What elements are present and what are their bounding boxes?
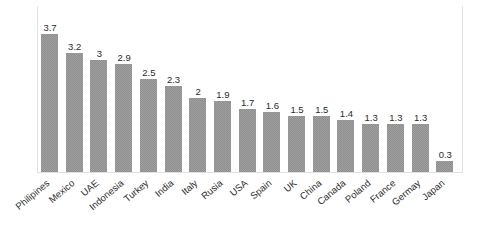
bar <box>239 109 256 172</box>
x-tick-label: UAE <box>88 174 110 186</box>
bar-value-label: 1.7 <box>237 97 259 108</box>
bar-group: 2 <box>187 6 209 172</box>
bar <box>214 101 231 172</box>
bar <box>41 34 58 172</box>
bar-group: 2.5 <box>138 6 160 172</box>
bar-value-label: 2.9 <box>113 52 135 63</box>
bar-value-label: 1.5 <box>311 104 333 115</box>
x-tick-label: UK <box>286 174 308 186</box>
bar-value-label: 1.6 <box>261 100 283 111</box>
bar <box>115 64 132 172</box>
x-tick-label: Mexico <box>64 174 86 186</box>
bar <box>288 116 305 172</box>
bar-value-label: 2 <box>187 86 209 97</box>
bar-group: 1.3 <box>360 6 382 172</box>
bar-group: 3.2 <box>64 6 86 172</box>
bar-group: 1.7 <box>237 6 259 172</box>
x-tick-label: Germay <box>410 174 432 186</box>
bar <box>313 116 330 172</box>
bar-value-label: 1.5 <box>286 104 308 115</box>
x-tick-label-text: UK <box>281 177 298 194</box>
plot-area: 3.73.232.92.52.321.91.71.61.51.51.41.31.… <box>37 6 463 172</box>
bar-value-label: 1.4 <box>335 108 357 119</box>
bar-group: 2.9 <box>113 6 135 172</box>
x-tick-label: USA <box>237 174 259 186</box>
x-tick-label-text: Philipines <box>13 177 51 212</box>
x-tick-label: Indonesia <box>113 174 135 186</box>
x-tick-label: France <box>385 174 407 186</box>
bar <box>412 124 429 172</box>
bar <box>140 79 157 172</box>
x-tick-label: Canada <box>335 174 357 186</box>
bar-value-label: 3 <box>88 48 110 59</box>
x-axis-category-labels: PhilipinesMexicoUAEIndonesiaTurkeyIndiaI… <box>37 174 463 244</box>
bar-group: 1.5 <box>311 6 333 172</box>
bar-group: 1.6 <box>261 6 283 172</box>
bar-group: 1.3 <box>410 6 432 172</box>
bar <box>362 124 379 172</box>
x-tick-label: Italy <box>187 174 209 186</box>
bar-value-label: 1.3 <box>385 112 407 123</box>
bar <box>387 124 404 172</box>
bar-group: 1.5 <box>286 6 308 172</box>
bar-chart: 3.73.232.92.52.321.91.71.61.51.51.41.31.… <box>0 0 481 245</box>
bar-value-label: 3.7 <box>39 22 61 33</box>
x-tick-label: Turkey <box>138 174 160 186</box>
bar-group: 1.4 <box>335 6 357 172</box>
bar-value-label: 2.3 <box>163 74 185 85</box>
bar <box>189 98 206 173</box>
bar <box>66 53 83 172</box>
bar <box>337 120 354 172</box>
bar-value-label: 1.3 <box>410 112 432 123</box>
bar <box>90 60 107 172</box>
x-tick-label: India <box>163 174 185 186</box>
bar-group: 3.7 <box>39 6 61 172</box>
bar-value-label: 3.2 <box>64 41 86 52</box>
bar <box>263 112 280 172</box>
x-tick-label: Philipines <box>39 174 61 186</box>
x-axis-baseline <box>37 172 463 173</box>
x-tick-label: Japan <box>434 174 456 186</box>
bar-group: 3 <box>88 6 110 172</box>
x-tick-label: Rusia <box>212 174 234 186</box>
bar-value-label: 2.5 <box>138 67 160 78</box>
bar <box>436 161 453 172</box>
bar-group: 2.3 <box>163 6 185 172</box>
bar-group: 1.9 <box>212 6 234 172</box>
bar-value-label: 0.3 <box>434 149 456 160</box>
x-tick-label: Spain <box>261 174 283 186</box>
bar-value-label: 1.3 <box>360 112 382 123</box>
bar-value-label: 1.9 <box>212 89 234 100</box>
bar-group: 0.3 <box>434 6 456 172</box>
bar-group: 1.3 <box>385 6 407 172</box>
x-tick-label: China <box>311 174 333 186</box>
x-tick-label: Poland <box>360 174 382 186</box>
bar <box>165 86 182 172</box>
